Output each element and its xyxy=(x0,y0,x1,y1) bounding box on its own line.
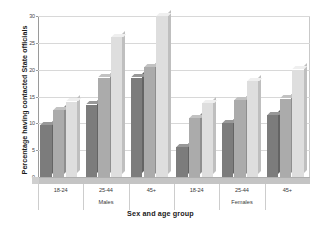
bar-chart: Percentage having contacted State offici… xyxy=(0,0,321,226)
x-category-labels: 18-2425-4445+18-2425-4445+ xyxy=(38,184,310,196)
bar-face xyxy=(53,110,65,177)
bar xyxy=(156,16,168,177)
bar-side xyxy=(304,63,307,174)
bar xyxy=(40,125,52,177)
bar xyxy=(234,100,246,177)
y-tick-label: 10 xyxy=(19,120,35,126)
bar xyxy=(176,147,188,177)
bar xyxy=(144,67,156,177)
bar xyxy=(66,102,78,177)
x-tick-label: 18-24 xyxy=(174,184,219,196)
bar xyxy=(267,115,279,177)
bar-face xyxy=(111,37,123,177)
chart-floor xyxy=(38,177,310,184)
bar-face xyxy=(176,147,188,177)
x-tick-label: 18-24 xyxy=(38,184,83,196)
bar-face xyxy=(202,103,214,177)
bar-face xyxy=(144,67,156,177)
bar xyxy=(247,81,259,177)
bar xyxy=(202,103,214,177)
bar-face xyxy=(86,105,98,177)
bar-face xyxy=(280,99,292,177)
x-axis-title: Sex and age group xyxy=(0,209,321,218)
bar xyxy=(292,70,304,177)
bar-side xyxy=(77,95,80,174)
chart-floor-left xyxy=(32,177,39,184)
bar xyxy=(111,37,123,177)
bar-side xyxy=(258,75,261,174)
bar-face xyxy=(222,123,234,177)
bar xyxy=(280,99,292,177)
x-tick-label: 25-44 xyxy=(83,184,128,196)
bar xyxy=(189,118,201,177)
bar-side xyxy=(168,9,171,173)
bar-face xyxy=(247,81,259,177)
bar-face xyxy=(292,70,304,177)
y-tick-label: 15 xyxy=(19,94,35,100)
y-tick-label: 5 xyxy=(19,147,35,153)
x-group-labels: MalesFemales xyxy=(38,197,310,208)
bar-side xyxy=(122,31,125,174)
x-group-label: Males xyxy=(38,197,174,208)
bar xyxy=(98,78,110,177)
bar-face xyxy=(189,118,201,177)
bar-face xyxy=(66,102,78,177)
bar-face xyxy=(40,125,52,177)
bar xyxy=(131,78,143,177)
bar-face xyxy=(98,78,110,177)
bar xyxy=(53,110,65,177)
bar-series-layer xyxy=(38,16,310,177)
x-group-label: Females xyxy=(174,197,310,208)
bar-face xyxy=(234,100,246,177)
y-tick-label: 20 xyxy=(19,67,35,73)
bar-face xyxy=(156,16,168,177)
y-tick-label: 30 xyxy=(19,13,35,19)
x-tick-label: 45+ xyxy=(265,184,310,196)
x-tick-label: 45+ xyxy=(129,184,174,196)
bar xyxy=(86,105,98,177)
y-tick-label: 25 xyxy=(19,40,35,46)
bar-side xyxy=(213,97,216,174)
bar-face xyxy=(267,115,279,177)
bar xyxy=(222,123,234,177)
x-tick-label: 25-44 xyxy=(219,184,264,196)
bar-face xyxy=(131,78,143,177)
